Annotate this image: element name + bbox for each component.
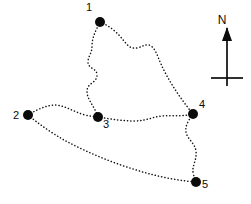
site-label-3: 3 [103,118,109,130]
compass-north-label: N [218,13,227,27]
north-arrow-icon: N [211,13,243,86]
site-dot-1[interactable] [95,17,105,27]
map-canvas: 1 2 3 4 5 N [0,0,251,204]
route-1-to-3 [87,22,100,117]
route-3-to-4 [98,114,193,121]
route-1-to-4 [100,22,193,114]
route-2-to-3 [28,105,98,117]
site-label-2: 2 [13,109,19,121]
site-label-4: 4 [199,98,205,110]
site-label-5: 5 [202,178,208,190]
compass-arrowhead [222,27,232,41]
site-dot-2[interactable] [23,110,33,120]
site-dot-3[interactable] [93,112,103,122]
route-4-to-5 [186,114,196,182]
route-network [28,22,196,182]
site-dot-4[interactable] [188,109,198,119]
site-label-1: 1 [86,1,92,13]
sketch-map-figure: 1 2 3 4 5 N [0,0,251,204]
route-2-to-5 [28,115,196,182]
site-dot-5[interactable] [191,177,201,187]
